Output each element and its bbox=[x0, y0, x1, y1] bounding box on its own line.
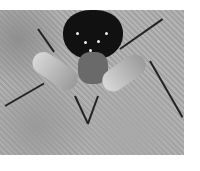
head-spot bbox=[97, 40, 100, 43]
head-spot bbox=[105, 32, 108, 35]
right-antenna bbox=[119, 18, 163, 49]
left-claw bbox=[74, 96, 88, 124]
right-claw bbox=[87, 96, 99, 125]
right-leg bbox=[149, 61, 183, 118]
insect-photo bbox=[0, 10, 184, 155]
left-leg bbox=[5, 83, 45, 107]
head-spot bbox=[76, 32, 79, 35]
left-antenna bbox=[37, 28, 55, 52]
head-spot bbox=[84, 41, 87, 44]
